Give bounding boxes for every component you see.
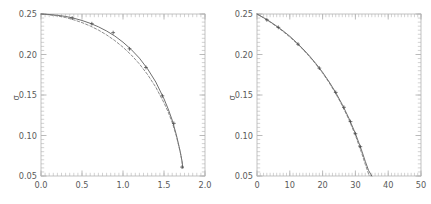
curve-solid xyxy=(257,14,372,176)
left-plot-svg: 0.00.51.01.52.00.050.100.150.200.25σ xyxy=(0,0,215,204)
data-markers xyxy=(265,18,362,149)
x-tick-label: 10 xyxy=(285,180,295,190)
y-tick-label: 0.20 xyxy=(235,50,253,60)
y-tick-label: 0.05 xyxy=(19,171,37,181)
y-axis-label: σ xyxy=(11,95,21,100)
y-tick-label: 0.10 xyxy=(235,131,253,141)
x-tick-label: 0.5 xyxy=(75,180,88,190)
x-tick-label: 30 xyxy=(350,180,360,190)
y-tick-label: 0.15 xyxy=(235,90,253,100)
figure-root: 0.00.51.01.52.00.050.100.150.200.25σ 010… xyxy=(0,0,431,204)
y-tick-label: 0.25 xyxy=(19,9,37,19)
x-tick-labels: 0.00.51.01.52.0 xyxy=(34,180,211,190)
x-tick-label: 1.5 xyxy=(157,180,170,190)
chart-panel-left: 0.00.51.01.52.00.050.100.150.200.25σ xyxy=(0,0,215,204)
major-ticks xyxy=(257,14,421,176)
plot-frame xyxy=(257,14,421,176)
y-tick-label: 0.20 xyxy=(19,50,37,60)
x-tick-label: 40 xyxy=(383,180,393,190)
x-tick-label: 50 xyxy=(416,180,426,190)
x-tick-label: 0 xyxy=(254,180,259,190)
y-tick-label: 0.15 xyxy=(19,90,37,100)
x-tick-label: 1.0 xyxy=(116,180,129,190)
x-tick-label: 20 xyxy=(317,180,327,190)
minor-ticks xyxy=(257,14,421,176)
x-tick-label: 2.0 xyxy=(198,180,211,190)
y-tick-label: 0.05 xyxy=(235,171,253,181)
curve-dashed xyxy=(257,14,370,176)
y-tick-labels: 0.050.100.150.200.25 xyxy=(235,9,253,181)
data-markers xyxy=(70,16,184,169)
y-tick-labels: 0.050.100.150.200.25 xyxy=(19,9,37,181)
x-tick-label: 0.0 xyxy=(34,180,47,190)
y-axis-label: σ xyxy=(227,95,237,100)
right-plot-svg: 010203040500.050.100.150.200.25σ xyxy=(216,0,431,204)
y-tick-label: 0.25 xyxy=(235,9,253,19)
x-tick-labels: 01020304050 xyxy=(254,180,426,190)
curve-dashed xyxy=(41,14,183,168)
curve-solid xyxy=(41,14,183,168)
chart-panel-right: 010203040500.050.100.150.200.25σ xyxy=(216,0,431,204)
y-tick-label: 0.10 xyxy=(19,131,37,141)
